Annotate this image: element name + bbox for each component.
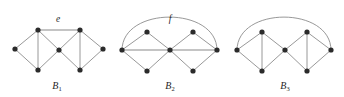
graph-b2: fB2 bbox=[119, 14, 219, 92]
vertex-b2-bottom-left[interactable] bbox=[144, 68, 149, 73]
vertex-b3-top-right[interactable] bbox=[304, 29, 309, 34]
graph-b1: eB1 bbox=[12, 14, 105, 92]
edge-label-e: e bbox=[56, 14, 60, 24]
arc-edge-b3 bbox=[237, 17, 331, 50]
edge-b1-left-to-b1-bottom-left bbox=[15, 49, 38, 70]
graph-label-subscript: 2 bbox=[171, 85, 174, 92]
graph-label-b2: B2 bbox=[165, 80, 174, 92]
edge-b1-top-right-to-b1-right bbox=[80, 30, 103, 49]
edge-b1-bottom-left-to-b1-center bbox=[38, 50, 59, 70]
edge-b1-bottom-right-to-b1-right bbox=[80, 49, 103, 70]
edge-b1-top-left-to-b1-center bbox=[38, 30, 59, 50]
vertex-b3-right[interactable] bbox=[328, 47, 333, 52]
edge-b3-top-left-to-b3-center bbox=[262, 32, 285, 50]
vertex-b1-bottom-right[interactable] bbox=[77, 67, 82, 72]
vertex-b2-top-left[interactable] bbox=[144, 29, 149, 34]
vertex-b3-center[interactable] bbox=[282, 47, 287, 52]
edge-b3-top-right-to-b3-right bbox=[307, 32, 331, 50]
edge-b3-center-to-b3-bottom-right bbox=[285, 50, 307, 71]
vertex-b3-left[interactable] bbox=[234, 47, 239, 52]
vertex-b2-right[interactable] bbox=[214, 47, 219, 52]
vertex-b1-right[interactable] bbox=[100, 46, 105, 51]
edge-b2-center-to-b2-top-right bbox=[170, 32, 193, 50]
edge-b3-bottom-left-to-b3-center bbox=[262, 50, 285, 71]
vertex-b2-center[interactable] bbox=[167, 47, 172, 52]
graph-label-b3: B3 bbox=[280, 80, 289, 92]
graph-b3: B3 bbox=[234, 17, 333, 92]
vertex-b1-bottom-left[interactable] bbox=[35, 67, 40, 72]
edge-b2-top-right-to-b2-right bbox=[193, 32, 217, 50]
vertex-b1-left[interactable] bbox=[12, 46, 17, 51]
graph-label-b1: B1 bbox=[52, 80, 61, 92]
edge-b2-bottom-left-to-b2-center bbox=[147, 50, 170, 71]
vertex-b1-top-left[interactable] bbox=[35, 27, 40, 32]
vertex-b3-top-left[interactable] bbox=[259, 29, 264, 34]
graph-label-subscript: 1 bbox=[58, 85, 61, 92]
graph-label-subscript: 3 bbox=[286, 85, 289, 92]
edge-b1-left-to-b1-top-left bbox=[15, 30, 38, 49]
graphs-layer: eB1fB2B3 bbox=[12, 14, 333, 92]
edge-b2-center-to-b2-bottom-right bbox=[170, 50, 193, 71]
edge-b2-left-to-b2-bottom-left bbox=[122, 50, 147, 71]
vertex-b2-top-right[interactable] bbox=[190, 29, 195, 34]
graph-figure-svg: eB1fB2B3 bbox=[0, 0, 344, 97]
figure-canvas: eB1fB2B3 bbox=[0, 0, 344, 97]
vertex-b2-left[interactable] bbox=[119, 47, 124, 52]
edge-b1-center-to-b1-top-right bbox=[59, 30, 80, 50]
edge-b1-center-to-b1-bottom-right bbox=[59, 50, 80, 70]
edge-b3-left-to-b3-top-left bbox=[237, 32, 262, 50]
vertex-b3-bottom-left[interactable] bbox=[259, 68, 264, 73]
vertex-b1-top-right[interactable] bbox=[77, 27, 82, 32]
vertex-b1-center[interactable] bbox=[56, 47, 61, 52]
vertex-b3-bottom-right[interactable] bbox=[304, 68, 309, 73]
edge-b2-top-left-to-b2-center bbox=[147, 32, 170, 50]
edge-b3-bottom-right-to-b3-right bbox=[307, 50, 331, 71]
edge-b2-left-to-b2-top-left bbox=[122, 32, 147, 50]
vertex-b2-bottom-right[interactable] bbox=[190, 68, 195, 73]
edge-b3-left-to-b3-bottom-left bbox=[237, 50, 262, 71]
edge-b3-center-to-b3-top-right bbox=[285, 32, 307, 50]
edge-b2-bottom-right-to-b2-right bbox=[193, 50, 217, 71]
edge-label-f: f bbox=[169, 14, 173, 24]
